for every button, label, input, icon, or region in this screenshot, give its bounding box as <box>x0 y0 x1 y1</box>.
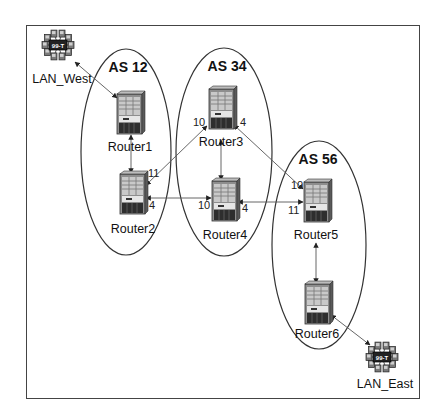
port-label: 10 <box>198 200 210 211</box>
router6-label: Router6 <box>295 328 339 341</box>
port-label: 4 <box>149 200 155 211</box>
as-label-as12: AS 12 <box>109 60 148 74</box>
port-label: 10 <box>193 117 205 128</box>
router4-label: Router4 <box>203 229 247 242</box>
router4-router-icon[interactable] <box>212 178 240 221</box>
port-label: 4 <box>240 117 246 128</box>
router1-router-icon[interactable] <box>117 91 145 134</box>
as-label-as56: AS 56 <box>299 152 338 166</box>
as-label-as34: AS 34 <box>208 59 247 73</box>
lan_east-label: LAN_East <box>357 378 413 391</box>
lan_west-label: LAN_West <box>32 73 92 86</box>
lan_west-hub-text: 99-T <box>52 43 65 49</box>
port-label: 10 <box>291 180 303 191</box>
router1-label: Router1 <box>108 141 152 154</box>
router5-label: Router5 <box>294 229 338 242</box>
port-label: 11 <box>148 168 159 179</box>
router2-router-icon[interactable] <box>120 171 148 214</box>
router6-router-icon[interactable] <box>305 281 333 324</box>
autonomous-system-as34[interactable] <box>176 48 272 256</box>
port-label: 4 <box>242 203 248 214</box>
lan_west-lan-icon[interactable]: 99-T <box>42 30 74 60</box>
router3-router-icon[interactable] <box>209 86 237 129</box>
router3-label: Router3 <box>199 136 243 149</box>
port-label: 11 <box>288 205 299 216</box>
lan_east-lan-icon[interactable]: 99-T <box>366 342 398 372</box>
router5-router-icon[interactable] <box>304 179 332 222</box>
lan_east-hub-text: 99-T <box>376 355 389 361</box>
router2-label: Router2 <box>111 223 155 236</box>
network-topology-canvas: 99-T99-T AS 12AS 34AS 56Router1Router2Ro… <box>0 0 442 417</box>
